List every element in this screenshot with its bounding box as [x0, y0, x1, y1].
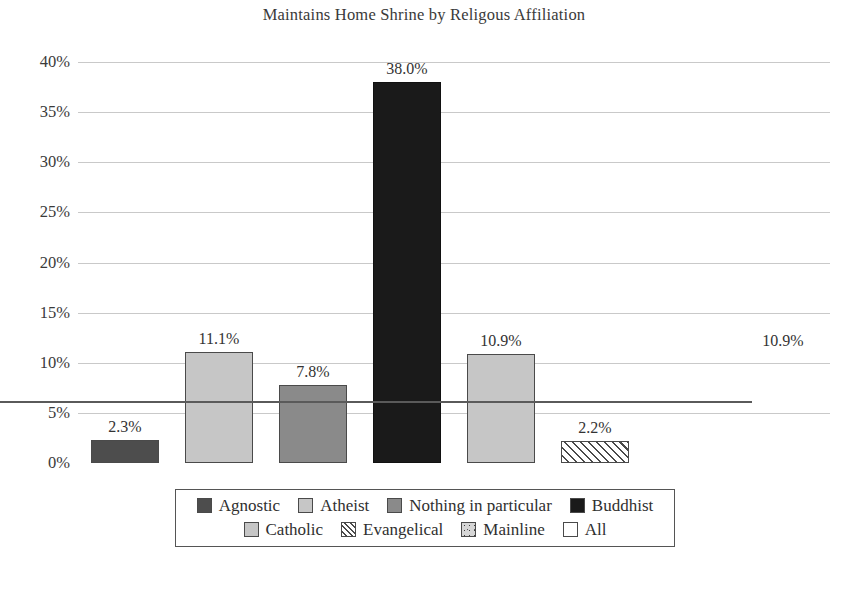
- legend-row: CatholicEvangelicalMainlineAll: [184, 521, 666, 538]
- y-axis-tick-label: 0%: [8, 453, 70, 473]
- y-axis-tick-label: 30%: [8, 152, 70, 172]
- legend-swatch-icon: [197, 498, 212, 513]
- bar-slot: 11.1%: [185, 62, 253, 463]
- bar-slot: 2.2%: [561, 62, 629, 463]
- y-axis-tick-label: 25%: [8, 202, 70, 222]
- legend-item-evangelical[interactable]: Evangelical: [341, 521, 443, 538]
- legend-label: All: [585, 521, 607, 538]
- legend-swatch-icon: [387, 498, 402, 513]
- bar-slot: 10.9%: [749, 62, 817, 463]
- legend-label: Nothing in particular: [409, 497, 552, 514]
- bar-value-label: 11.1%: [199, 330, 240, 348]
- bar-atheist[interactable]: [185, 352, 253, 463]
- y-axis-tick-label: 15%: [8, 303, 70, 323]
- bar-slot: [655, 62, 723, 463]
- legend-item-atheist[interactable]: Atheist: [298, 497, 369, 514]
- legend-label: Atheist: [320, 497, 369, 514]
- bar-slot: 10.9%: [467, 62, 535, 463]
- bar-value-label: 10.9%: [762, 332, 803, 350]
- bar-value-label: 2.2%: [578, 419, 611, 437]
- legend-label: Mainline: [483, 521, 544, 538]
- legend-label: Buddhist: [592, 497, 653, 514]
- legend-item-agnostic[interactable]: Agnostic: [197, 497, 280, 514]
- legend-item-nothing-in-particular[interactable]: Nothing in particular: [387, 497, 552, 514]
- legend-swatch-icon: [563, 522, 578, 537]
- bar-catholic[interactable]: [467, 354, 535, 463]
- y-axis-tick-label: 20%: [8, 253, 70, 273]
- bar-value-label: 10.9%: [480, 332, 521, 350]
- legend-label: Evangelical: [363, 521, 443, 538]
- legend-row: AgnosticAtheistNothing in particularBudd…: [184, 497, 666, 514]
- legend-item-catholic[interactable]: Catholic: [244, 521, 324, 538]
- bar-value-label: 2.3%: [108, 418, 141, 436]
- legend-swatch-icon: [298, 498, 313, 513]
- chart-legend: AgnosticAtheistNothing in particularBudd…: [175, 489, 675, 547]
- plot-area: 2.3%11.1%7.8%38.0%10.9%2.2%10.9%: [78, 62, 830, 463]
- bar-evangelical[interactable]: [561, 441, 629, 463]
- legend-label: Agnostic: [219, 497, 280, 514]
- bar-slot: 7.8%: [279, 62, 347, 463]
- legend-swatch-icon: [570, 498, 585, 513]
- chart-title: Maintains Home Shrine by Religous Affili…: [0, 5, 848, 25]
- bar-nothing-in-particular[interactable]: [279, 385, 347, 463]
- y-axis-tick-label: 40%: [8, 52, 70, 72]
- legend-label: Catholic: [266, 521, 324, 538]
- y-axis-tick-label: 35%: [8, 102, 70, 122]
- legend-swatch-icon: [244, 522, 259, 537]
- bar-value-label: 7.8%: [296, 363, 329, 381]
- legend-item-mainline[interactable]: Mainline: [461, 521, 544, 538]
- y-axis-labels: 40%35%30%25%20%15%10%5%0%: [0, 62, 70, 463]
- legend-item-all[interactable]: All: [563, 521, 607, 538]
- bar-value-label: 38.0%: [386, 60, 427, 78]
- legend-swatch-icon: [461, 522, 476, 537]
- legend-swatch-icon: [341, 522, 356, 537]
- bar-chart: Maintains Home Shrine by Religous Affili…: [0, 0, 848, 593]
- y-axis-tick-label: 10%: [8, 353, 70, 373]
- x-axis-line: [0, 401, 752, 403]
- bar-slot: 2.3%: [91, 62, 159, 463]
- legend-item-buddhist[interactable]: Buddhist: [570, 497, 653, 514]
- y-axis-tick-label: 5%: [8, 403, 70, 423]
- bar-agnostic[interactable]: [91, 440, 159, 463]
- bar-slot: 38.0%: [373, 62, 441, 463]
- bar-buddhist[interactable]: [373, 82, 441, 463]
